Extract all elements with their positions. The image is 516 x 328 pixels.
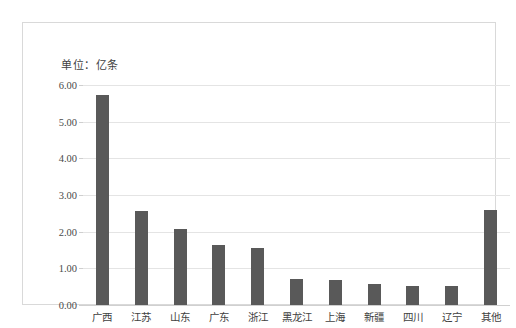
x-axis-tick-label: 江苏 <box>131 309 151 324</box>
x-axis-line <box>83 305 510 306</box>
x-axis-tick-label: 辽宁 <box>442 309 462 324</box>
x-axis-tick-label: 黑龙江 <box>282 309 312 324</box>
y-axis-tick-label: 2.00 <box>33 226 77 237</box>
x-axis-labels: 广西江苏山东广东浙江黑龙江上海新疆四川辽宁其他 <box>83 309 510 327</box>
y-axis-tick-label: 5.00 <box>33 116 77 127</box>
x-axis-tick-label: 广西 <box>92 309 112 324</box>
bar-series <box>83 85 510 305</box>
bar <box>329 280 342 305</box>
bar <box>484 210 497 305</box>
y-axis-labels: 6.005.004.003.002.001.000.00 <box>31 85 77 305</box>
bar <box>445 286 458 305</box>
y-axis-tick-label: 0.00 <box>33 300 77 311</box>
x-axis-tick-label: 其他 <box>481 309 501 324</box>
bar <box>135 211 148 305</box>
bar <box>406 286 419 305</box>
x-axis-tick-label: 山东 <box>170 309 190 324</box>
y-axis-tick-label: 1.00 <box>33 263 77 274</box>
y-axis-tickmark <box>79 305 83 306</box>
bar <box>251 248 264 305</box>
y-axis-tick-label: 6.00 <box>33 80 77 91</box>
x-axis-tick-label: 四川 <box>403 309 423 324</box>
x-axis-tick-label: 上海 <box>325 309 345 324</box>
y-axis-tick-label: 4.00 <box>33 153 77 164</box>
chart-frame: 单位：亿条 6.005.004.003.002.001.000.00 广西江苏山… <box>22 22 496 305</box>
bar <box>96 95 109 305</box>
y-axis-tick-label: 3.00 <box>33 190 77 201</box>
x-axis-tick-label: 新疆 <box>364 309 384 324</box>
unit-label: 单位：亿条 <box>61 56 119 72</box>
bar <box>174 229 187 305</box>
bar <box>290 279 303 305</box>
x-axis-tick-label: 广东 <box>209 309 229 324</box>
x-axis-tick-label: 浙江 <box>248 309 268 324</box>
bar <box>368 284 381 305</box>
bar <box>212 245 225 305</box>
